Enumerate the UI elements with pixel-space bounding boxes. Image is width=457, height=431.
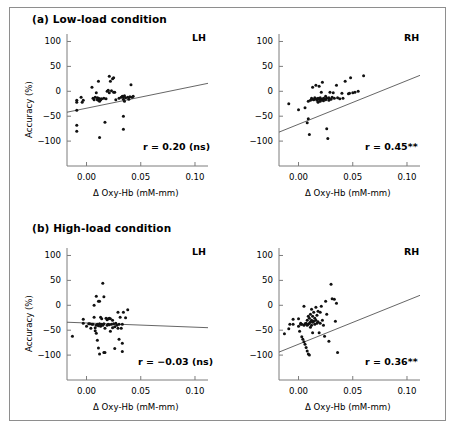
data-point	[126, 308, 129, 311]
ytick-label: 0	[56, 300, 61, 310]
data-point	[103, 327, 106, 330]
data-point	[90, 86, 93, 89]
data-point	[335, 84, 338, 87]
data-point	[318, 331, 321, 334]
data-point	[105, 97, 108, 100]
data-point	[124, 316, 127, 319]
data-point	[112, 76, 115, 79]
data-point	[71, 335, 74, 338]
data-point	[114, 98, 117, 101]
hemisphere-label-a-lh: LH	[192, 32, 206, 43]
subplot-a-lh: 100500−50−1000.000.050.10	[24, 26, 214, 188]
data-point	[362, 74, 365, 77]
data-point	[292, 323, 295, 326]
data-point	[320, 305, 323, 308]
data-point	[89, 327, 92, 330]
panel-b-title: (b) High-load condition	[32, 222, 171, 234]
data-point	[353, 91, 356, 94]
data-points-group	[287, 74, 365, 140]
data-point	[320, 91, 323, 94]
data-point	[108, 75, 111, 78]
correlation-label-a-lh: r = 0.20 (ns)	[143, 141, 210, 152]
data-point	[93, 304, 96, 307]
correlation-label-a-rh: r = 0.45**	[365, 141, 418, 152]
ytick-label: −50	[43, 111, 61, 121]
hemisphere-label-b-lh: LH	[192, 246, 206, 257]
ytick-label: 50	[262, 61, 273, 71]
hemisphere-label-a-rh: RH	[404, 32, 419, 43]
data-point	[85, 325, 88, 328]
data-point	[118, 323, 121, 326]
ytick-label: −50	[255, 325, 273, 335]
data-point	[305, 346, 308, 349]
data-point	[315, 314, 318, 317]
xaxis-label-a-lh: Δ Oxy-Hb (mM-mm)	[93, 188, 178, 198]
ytick-label: −100	[37, 350, 61, 360]
data-point	[113, 91, 116, 94]
data-point	[75, 99, 78, 102]
data-point	[283, 332, 286, 335]
data-point	[80, 96, 83, 99]
data-point	[304, 343, 307, 346]
data-point	[122, 128, 125, 131]
data-points-group	[71, 282, 129, 356]
regression-line	[279, 75, 420, 132]
data-point	[327, 340, 330, 343]
data-point	[333, 298, 336, 301]
data-point	[308, 354, 311, 357]
data-point	[82, 99, 85, 102]
correlation-label-b-lh: r = −0.03 (ns)	[138, 356, 213, 367]
data-point	[92, 323, 95, 326]
data-point	[122, 311, 125, 314]
data-point	[97, 80, 100, 83]
data-point	[121, 342, 124, 345]
data-point	[323, 335, 326, 338]
data-point	[349, 76, 352, 79]
data-point	[344, 80, 347, 83]
data-point	[314, 306, 317, 309]
data-point	[102, 295, 105, 298]
data-point	[318, 85, 321, 88]
xtick-label: 0.00	[289, 386, 308, 396]
scatter-plot-b-rh: 100500−50−1000.000.050.10	[236, 240, 426, 402]
data-point	[341, 97, 344, 100]
data-point	[287, 102, 290, 105]
ytick-label: 50	[262, 275, 273, 285]
data-point	[332, 91, 335, 94]
data-point	[336, 351, 339, 354]
xtick-label: 0.00	[289, 172, 308, 182]
xaxis-label-a-rh: Δ Oxy-Hb (mM-mm)	[305, 188, 390, 198]
xtick-label: 0.00	[77, 386, 96, 396]
data-point	[334, 320, 337, 323]
data-point	[129, 83, 132, 86]
subplot-b-lh: 100500−50−1000.000.050.10	[24, 240, 214, 402]
scatter-plot-a-lh: 100500−50−1000.000.050.10	[24, 26, 214, 188]
data-point	[310, 324, 313, 327]
data-point	[328, 91, 331, 94]
data-point	[310, 308, 313, 311]
data-point	[319, 322, 322, 325]
data-point	[82, 322, 85, 325]
xtick-label: 0.05	[131, 172, 150, 182]
ytick-label: 100	[257, 250, 273, 260]
data-point	[292, 318, 295, 321]
data-point	[121, 323, 124, 326]
data-point	[306, 350, 309, 353]
data-point	[321, 81, 324, 84]
ytick-label: 100	[45, 250, 61, 260]
data-point	[98, 353, 101, 356]
data-point	[122, 115, 125, 118]
xtick-label: 0.10	[185, 386, 204, 396]
data-point	[302, 305, 305, 308]
data-point	[116, 311, 119, 314]
xtick-label: 0.10	[185, 172, 204, 182]
regression-line	[67, 83, 208, 112]
data-point	[319, 311, 322, 314]
ytick-label: 100	[257, 36, 273, 46]
data-point	[102, 322, 105, 325]
hemisphere-label-b-rh: RH	[404, 246, 419, 257]
data-point	[312, 311, 315, 314]
data-point	[95, 91, 98, 94]
data-point	[123, 100, 126, 103]
data-point	[121, 350, 124, 353]
